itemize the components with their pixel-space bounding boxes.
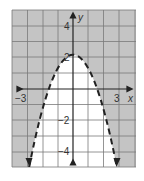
x-axis-label: x	[127, 93, 134, 104]
x-tick-3: 3	[114, 93, 120, 104]
y-tick-4: 4	[64, 21, 70, 32]
y-tick-2: 2	[64, 52, 70, 63]
y-axis-label: y	[77, 12, 84, 23]
x-tick-neg3: −3	[15, 93, 27, 104]
y-tick-neg4: −4	[58, 146, 70, 157]
y-tick-neg2: −2	[58, 115, 70, 126]
inequality-graph: y x −3 3 4 2 −2 −4	[0, 0, 144, 181]
